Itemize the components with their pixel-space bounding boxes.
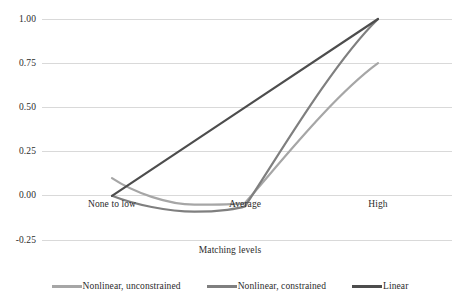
legend-swatch-icon xyxy=(52,285,82,288)
series-line xyxy=(112,19,378,212)
y-tick-label: -0.25 xyxy=(2,235,36,245)
y-tick-label: 0.00 xyxy=(2,190,36,200)
x-tick-label: Average xyxy=(229,199,261,210)
y-tick-label: 0.25 xyxy=(2,146,36,156)
legend-label: Nonlinear, constrained xyxy=(238,281,326,291)
chart-canvas xyxy=(0,0,460,301)
legend-label: Linear xyxy=(383,281,408,291)
series-lines xyxy=(112,19,378,212)
legend-label: Nonlinear, unconstrained xyxy=(83,281,181,291)
x-axis-title: Matching levels xyxy=(0,245,460,255)
y-tick-label: 1.00 xyxy=(2,14,36,24)
series-line xyxy=(112,63,378,204)
legend-item[interactable]: Nonlinear, unconstrained xyxy=(52,281,181,291)
chart-legend: Nonlinear, unconstrainedNonlinear, const… xyxy=(0,277,460,295)
y-tick-label: 0.50 xyxy=(2,102,36,112)
legend-swatch-icon xyxy=(352,285,382,288)
x-tick-label: High xyxy=(368,199,387,210)
y-tick-label: 0.75 xyxy=(2,58,36,68)
legend-swatch-icon xyxy=(207,285,237,288)
x-tick-label: None to low xyxy=(88,199,136,210)
line-chart: 1.000.750.500.250.00-0.25 None to lowAve… xyxy=(0,0,460,301)
legend-item[interactable]: Nonlinear, constrained xyxy=(207,281,326,291)
legend-item[interactable]: Linear xyxy=(352,281,408,291)
